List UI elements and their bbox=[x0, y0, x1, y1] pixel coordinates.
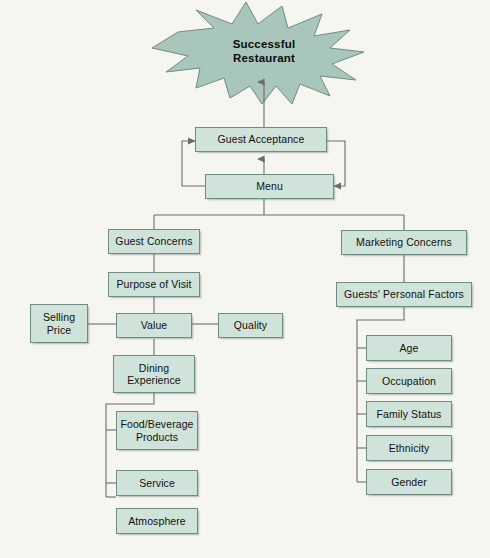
node-service-label: Service bbox=[137, 477, 177, 490]
node-family-status-label: Family Status bbox=[375, 408, 444, 421]
node-food-beverage-products-label: Food/Beverage Products bbox=[116, 418, 197, 443]
node-selling-price[interactable]: Selling Price bbox=[30, 304, 88, 343]
node-selling-price-line2: Price bbox=[41, 324, 77, 337]
node-value[interactable]: Value bbox=[116, 313, 192, 338]
node-food-beverage-line2: Products bbox=[118, 431, 195, 444]
node-age[interactable]: Age bbox=[366, 335, 452, 361]
node-food-beverage-products[interactable]: Food/Beverage Products bbox=[116, 411, 198, 450]
node-age-label: Age bbox=[398, 342, 421, 355]
starburst-label: Successful Restaurant bbox=[204, 37, 324, 65]
node-guest-acceptance-label: Guest Acceptance bbox=[216, 133, 307, 146]
node-gender[interactable]: Gender bbox=[366, 469, 452, 495]
node-atmosphere[interactable]: Atmosphere bbox=[116, 508, 198, 534]
node-gender-label: Gender bbox=[389, 476, 429, 489]
node-family-status[interactable]: Family Status bbox=[366, 401, 452, 427]
node-menu[interactable]: Menu bbox=[205, 174, 334, 199]
node-quality-label: Quality bbox=[232, 319, 269, 332]
node-dining-experience-line2: Experience bbox=[125, 374, 183, 387]
node-purpose-of-visit[interactable]: Purpose of Visit bbox=[108, 272, 200, 297]
node-purpose-of-visit-label: Purpose of Visit bbox=[115, 278, 194, 291]
node-service[interactable]: Service bbox=[116, 470, 198, 496]
starburst-label-line1: Successful bbox=[204, 37, 324, 51]
node-food-beverage-line1: Food/Beverage bbox=[118, 418, 195, 431]
node-guest-acceptance[interactable]: Guest Acceptance bbox=[195, 127, 327, 152]
node-marketing-concerns[interactable]: Marketing Concerns bbox=[341, 230, 467, 255]
node-occupation-label: Occupation bbox=[380, 375, 438, 388]
node-occupation[interactable]: Occupation bbox=[366, 368, 452, 394]
node-guests-personal-factors-label: Guests' Personal Factors bbox=[342, 288, 466, 301]
node-dining-experience-label: Dining Experience bbox=[123, 362, 185, 387]
node-value-label: Value bbox=[139, 319, 170, 332]
node-guest-concerns-label: Guest Concerns bbox=[113, 235, 194, 248]
diagram-canvas: Successful Restaurant Guest Acceptance M… bbox=[0, 0, 490, 558]
node-ethnicity-label: Ethnicity bbox=[387, 442, 432, 455]
node-selling-price-label: Selling Price bbox=[39, 311, 79, 336]
node-guests-personal-factors[interactable]: Guests' Personal Factors bbox=[336, 282, 472, 307]
node-atmosphere-label: Atmosphere bbox=[126, 515, 188, 528]
node-quality[interactable]: Quality bbox=[218, 313, 283, 338]
node-selling-price-line1: Selling bbox=[41, 311, 77, 324]
node-dining-experience[interactable]: Dining Experience bbox=[113, 355, 195, 393]
node-dining-experience-line1: Dining bbox=[125, 362, 183, 375]
starburst-label-line2: Restaurant bbox=[204, 51, 324, 65]
node-ethnicity[interactable]: Ethnicity bbox=[366, 435, 452, 461]
node-guest-concerns[interactable]: Guest Concerns bbox=[108, 229, 200, 254]
node-menu-label: Menu bbox=[254, 180, 285, 193]
node-marketing-concerns-label: Marketing Concerns bbox=[354, 236, 454, 249]
